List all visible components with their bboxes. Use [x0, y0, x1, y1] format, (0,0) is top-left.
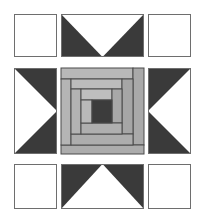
log-strip-ring3-bottom — [81, 123, 122, 134]
log-strip-outer-top — [61, 68, 133, 79]
quilt-svg — [0, 0, 199, 219]
flying-geese-right — [148, 68, 191, 154]
flying-geese-left — [14, 68, 57, 154]
log-strip-ring2-right — [122, 79, 133, 134]
flying-geese-top — [61, 14, 144, 57]
log-cabin-center — [61, 68, 144, 154]
corner-square-bottom-right — [149, 165, 191, 209]
log-strip-outer-bottom — [61, 145, 144, 154]
corner-square-top-left — [15, 15, 57, 57]
log-cabin-center-square — [92, 100, 112, 123]
corner-square-top-right — [149, 15, 191, 57]
log-strip-ring2-bottom — [71, 134, 133, 145]
corner-square-bottom-left — [15, 165, 57, 209]
quilt-block-diagram — [0, 0, 199, 219]
flying-geese-bottom — [61, 164, 144, 209]
log-strip-ring2-top — [71, 79, 122, 89]
log-strip-ring2-left — [71, 89, 81, 134]
log-strip-outer-right — [133, 68, 144, 145]
log-strip-ring3-right — [112, 89, 122, 123]
log-strip-ring3-top — [81, 89, 112, 100]
log-strip-ring3-left — [81, 100, 92, 123]
log-strip-outer-left — [61, 79, 71, 145]
